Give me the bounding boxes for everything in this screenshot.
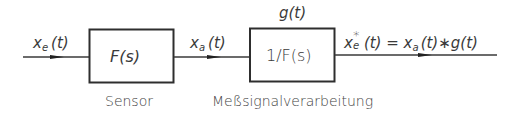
intermediate-signal-base: x (190, 34, 199, 52)
output-signal-equation: x*e(t) = xa(t)∗g(t) (344, 36, 478, 53)
output-rhs-rest: (t)∗g(t) (421, 34, 478, 52)
block-diagram: xe(t) F(s) Sensor xa(t) g(t) 1/F(s) Meßs… (0, 0, 517, 114)
input-signal-sub: e (42, 42, 48, 53)
output-rhs-sub: a (412, 42, 418, 53)
sensor-transfer-function: F(s) (110, 49, 140, 65)
output-lhs-sub: e (353, 41, 359, 51)
processing-transfer-function: 1/F(s) (266, 48, 312, 64)
input-arrow-icon (50, 55, 64, 59)
impulse-response-label: g(t) (279, 6, 306, 21)
intermediate-signal-sub: a (199, 42, 205, 53)
output-lhs-base: x (344, 34, 353, 52)
output-lhs-arg: (t) (364, 34, 382, 52)
input-signal-base: x (33, 34, 42, 52)
output-equals: = (381, 34, 403, 52)
intermediate-signal-label: xa(t) (190, 36, 226, 53)
processing-caption: Meßsignalverarbeitung (212, 94, 373, 108)
intermediate-signal-arg: (t) (208, 34, 226, 52)
input-signal-arg: (t) (51, 34, 69, 52)
output-arrow-icon (418, 53, 432, 57)
intermediate-arrow-icon (207, 55, 221, 59)
sensor-caption: Sensor (105, 94, 153, 108)
input-signal-label: xe(t) (33, 36, 69, 53)
